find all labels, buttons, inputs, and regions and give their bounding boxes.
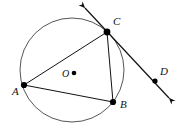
chord-ab (24, 85, 113, 102)
center-point-dot (72, 71, 77, 76)
secant-line-cd (85, 8, 169, 98)
point-c-dot (104, 29, 111, 36)
point-c-label: C (113, 16, 120, 27)
point-d-dot (152, 78, 157, 83)
geometry-canvas (0, 0, 183, 130)
center-point-label: O (62, 69, 69, 79)
point-a-dot (21, 82, 27, 88)
point-d-label: D (160, 66, 168, 77)
point-b-label: B (120, 99, 127, 110)
point-a-label: A (12, 86, 19, 97)
geometry-figure: A B C D O (0, 0, 183, 130)
chord-cb (107, 32, 113, 102)
point-b-dot (110, 99, 116, 105)
